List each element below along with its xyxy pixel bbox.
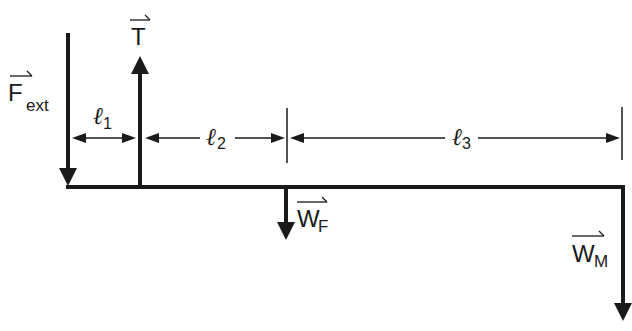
force-arrow-tension [131,56,149,187]
label-l2-symbol: ℓ [206,124,216,150]
force-arrow-w-m [614,185,632,321]
label-f-ext: F ext [8,79,49,115]
label-f-ext-main: F [8,79,23,106]
label-w-f-sub: F [318,217,328,236]
label-l3-symbol: ℓ [452,124,462,150]
label-l1: ℓ 1 [93,103,112,132]
label-f-ext-sub: ext [26,96,49,115]
label-tension-main: T [131,23,146,50]
label-w-f: W F [297,205,328,236]
label-tension: T [131,23,146,50]
beam-diagram: F ext T W F W M ℓ 1 ℓ 2 ℓ 3 [0,0,632,331]
label-l1-sub: 1 [103,115,112,132]
force-arrow-w-f [277,187,295,240]
label-l2: ℓ 2 [206,124,226,152]
label-l3: ℓ 3 [452,124,471,152]
label-w-m: W M [572,240,608,271]
dimension-l1 [72,133,136,143]
label-w-m-main: W [572,240,595,267]
label-w-f-main: W [297,205,320,232]
label-w-m-sub: M [594,252,608,271]
label-l2-sub: 2 [217,135,226,152]
label-l1-symbol: ℓ [93,103,103,129]
force-arrow-f-ext [59,33,77,186]
label-l3-sub: 3 [462,135,471,152]
